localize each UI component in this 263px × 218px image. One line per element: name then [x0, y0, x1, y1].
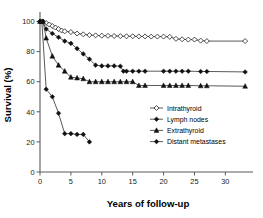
y-tick-label-100: 100	[22, 17, 34, 26]
x-tick-label-30: 30	[221, 177, 229, 186]
x-tick-label-0: 0	[38, 177, 42, 186]
y-axis-title: Survival (%)	[2, 68, 13, 123]
survival-chart: 020406080100 051015202530 Survival (%) Y…	[0, 0, 263, 218]
x-tick-label-5: 5	[69, 177, 73, 186]
x-tick-label-20: 20	[159, 177, 167, 186]
y-tick-label-20: 20	[26, 138, 34, 147]
x-tick-label-10: 10	[98, 177, 106, 186]
legend-label-2: Extrathyroid	[167, 127, 204, 135]
y-tick-label-60: 60	[26, 77, 34, 86]
x-tick-label-15: 15	[129, 177, 137, 186]
y-tick-label-80: 80	[26, 47, 34, 56]
legend-label-3: Distant metastases	[167, 138, 226, 145]
x-axis-title: Years of follow-up	[107, 198, 190, 209]
legend-label-0: Intrathyroid	[167, 105, 202, 113]
km-plot-svg: 020406080100 051015202530 Survival (%) Y…	[0, 0, 263, 218]
legend-label-1: Lymph nodes	[167, 116, 209, 124]
y-tick-label-40: 40	[26, 108, 34, 117]
y-tick-label-0: 0	[30, 168, 34, 177]
x-tick-label-25: 25	[190, 177, 198, 186]
